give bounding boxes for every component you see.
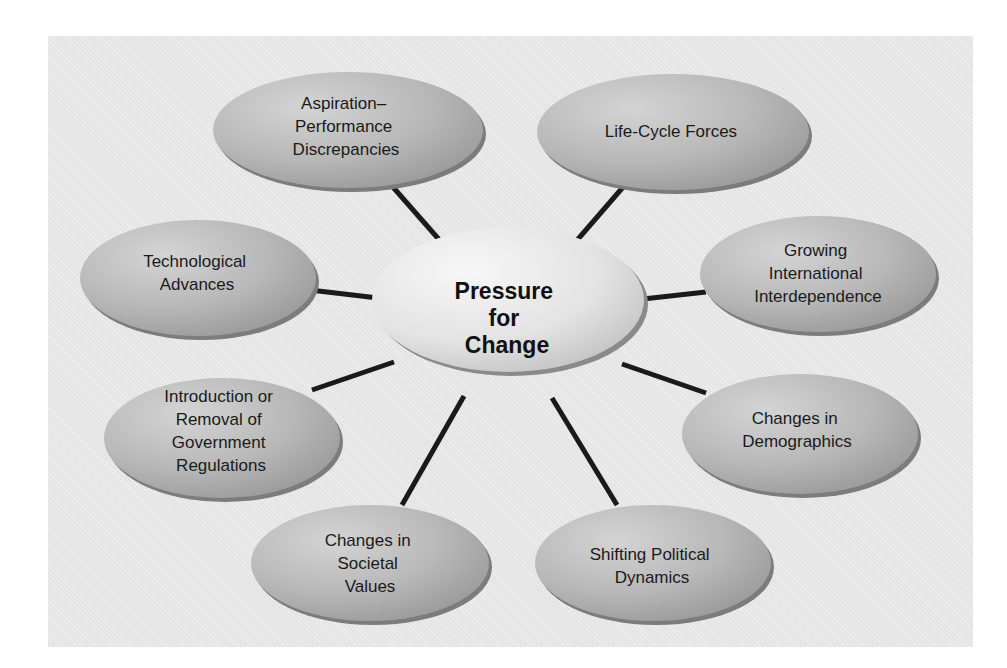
node-label: Aspiration– Performance Discrepancies bbox=[293, 94, 400, 159]
center-node-pressure-for-change: Pressure for Change bbox=[372, 228, 648, 376]
connector-political bbox=[552, 398, 617, 505]
connector-regulations bbox=[312, 362, 394, 390]
pressure-for-change-diagram: Aspiration– Performance Discrepancies Li… bbox=[0, 0, 1007, 668]
node-label: Life-Cycle Forces bbox=[605, 122, 737, 141]
node-aspiration: Aspiration– Performance Discrepancies bbox=[213, 72, 486, 192]
node-life-cycle: Life-Cycle Forces bbox=[537, 74, 812, 194]
connector-technological bbox=[310, 290, 378, 298]
connector-societal bbox=[402, 396, 464, 505]
node-demographics: Changes in Demographics bbox=[682, 374, 921, 498]
node-technological: Technological Advances bbox=[80, 220, 319, 340]
node-international: Growing International Interdependence bbox=[700, 216, 939, 336]
connector-demographics bbox=[622, 364, 706, 393]
node-political: Shifting Political Dynamics bbox=[535, 505, 774, 625]
node-regulations: Introduction or Removal of Government Re… bbox=[104, 378, 343, 502]
node-societal: Changes in Societal Values bbox=[251, 505, 492, 625]
